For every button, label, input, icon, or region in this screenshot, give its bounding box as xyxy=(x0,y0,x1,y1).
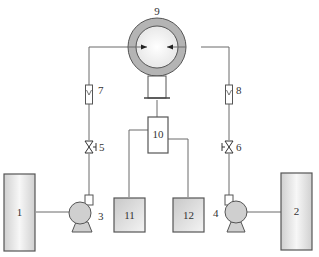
label-12: 12 xyxy=(183,209,194,221)
pump-3: 3 xyxy=(69,195,104,232)
collector-10: 10 xyxy=(148,117,168,153)
label-5: 5 xyxy=(99,141,105,153)
container-11: 11 xyxy=(114,198,145,232)
label-6: 6 xyxy=(236,141,242,153)
pipe-collector-11 xyxy=(129,130,148,197)
label-1: 1 xyxy=(17,206,23,218)
container-12: 12 xyxy=(173,198,204,232)
label-9: 9 xyxy=(154,5,160,17)
label-4: 4 xyxy=(213,207,219,219)
valve-6: 6 xyxy=(222,141,242,153)
pipe-collector-12 xyxy=(168,139,188,197)
tank-2: 2 xyxy=(281,173,312,250)
label-3: 3 xyxy=(98,210,104,222)
pipe-right-top xyxy=(201,47,229,85)
label-7: 7 xyxy=(98,84,104,96)
pump-4: 4 xyxy=(213,195,247,232)
tank-1: 1 xyxy=(4,174,35,251)
label-2: 2 xyxy=(294,205,300,217)
process-diagram: 9 7 8 5 6 3 4 1 xyxy=(0,0,319,257)
flowmeter-7: 7 xyxy=(86,84,105,104)
membrane-cell-9: 9 xyxy=(128,5,186,98)
label-11: 11 xyxy=(124,209,135,221)
label-10: 10 xyxy=(153,128,165,140)
pipe-left-top xyxy=(89,47,133,85)
flowmeter-8: 8 xyxy=(226,84,243,104)
valve-5: 5 xyxy=(85,141,105,153)
label-8: 8 xyxy=(236,84,242,96)
